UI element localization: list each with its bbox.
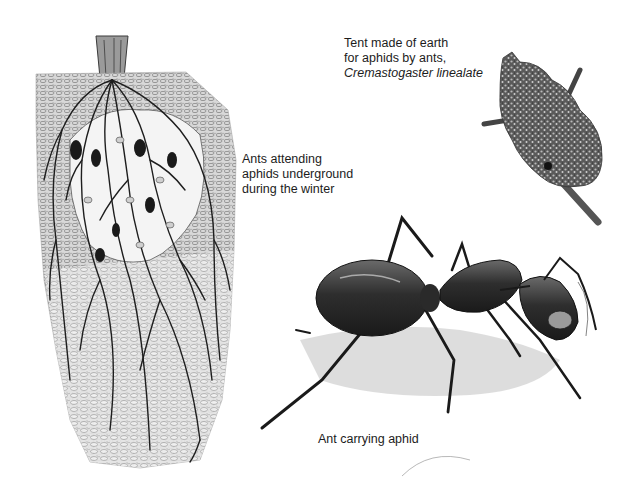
underground-root-illustration bbox=[36, 36, 236, 468]
caption-tent-line-2: for aphids by ants, bbox=[344, 51, 483, 66]
caption-ant-carrying: Ant carrying aphid bbox=[318, 432, 419, 447]
caption-tent-species: Cremastogaster linealate bbox=[344, 66, 483, 81]
earth-tent-illustration bbox=[484, 52, 602, 222]
caption-winter-line-1: Ants attending bbox=[242, 152, 353, 167]
caption-tent-line-1: Tent made of earth bbox=[344, 36, 483, 51]
caption-earth-tent: Tent made of earth for aphids by ants, C… bbox=[344, 36, 483, 81]
caption-winter-line-3: during the winter bbox=[242, 182, 353, 197]
caption-carrying-line-1: Ant carrying aphid bbox=[318, 432, 419, 447]
ant-illustration bbox=[262, 218, 596, 428]
stray-line bbox=[402, 456, 470, 476]
caption-winter-line-2: aphids underground bbox=[242, 167, 353, 182]
illustration-canvas bbox=[0, 0, 639, 480]
caption-underground-winter: Ants attending aphids underground during… bbox=[242, 152, 353, 197]
